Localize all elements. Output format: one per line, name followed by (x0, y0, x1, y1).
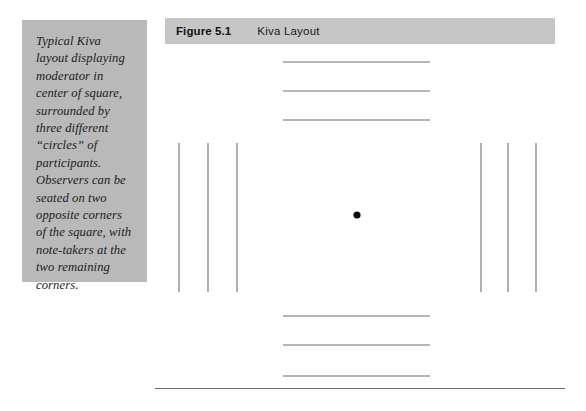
seating-rows-left (179, 143, 237, 292)
figure-title-label: Kiva Layout (257, 25, 319, 37)
seating-rows-right (481, 143, 536, 292)
figure-caption-text: Typical Kiva layout displaying moderator… (36, 33, 135, 294)
seating-rows-top (283, 62, 430, 120)
page-bottom-rule (155, 388, 565, 389)
figure-caption-panel: Typical Kiva layout displaying moderator… (22, 20, 147, 282)
seating-rows-bottom (283, 316, 430, 376)
figure-number-label: Figure 5.1 (176, 25, 231, 37)
moderator-center-dot (353, 211, 360, 218)
figure-header-bar: Figure 5.1 Kiva Layout (165, 18, 555, 44)
